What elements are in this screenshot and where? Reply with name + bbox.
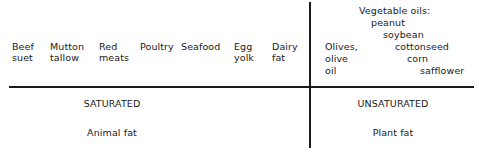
item-label: Poultry bbox=[140, 41, 174, 52]
item-label: Red bbox=[99, 41, 129, 52]
item-beef-suet: Beef suet bbox=[12, 41, 34, 63]
item-label: olive bbox=[325, 53, 358, 65]
item-label: Seafood bbox=[181, 41, 220, 52]
oil-soybean: soybean bbox=[383, 29, 424, 40]
item-red-meats: Red meats bbox=[99, 41, 129, 63]
item-label: Olives, bbox=[325, 41, 358, 53]
item-mutton-tallow: Mutton tallow bbox=[50, 41, 84, 63]
oil-corn: corn bbox=[407, 53, 428, 64]
horizontal-divider bbox=[9, 86, 474, 88]
oil-cottonseed: cottonseed bbox=[395, 41, 449, 52]
unsaturated-label: UNSATURATED bbox=[358, 98, 429, 109]
item-label: fat bbox=[272, 52, 298, 63]
oil-peanut: peanut bbox=[371, 17, 405, 28]
item-label: Egg bbox=[234, 41, 254, 52]
item-label: suet bbox=[12, 52, 34, 63]
item-label: Dairy bbox=[272, 41, 298, 52]
item-dairy-fat: Dairy fat bbox=[272, 41, 298, 63]
oil-safflower: safflower bbox=[420, 65, 464, 76]
item-label: Beef bbox=[12, 41, 34, 52]
vertical-divider bbox=[309, 2, 311, 148]
item-label: Mutton bbox=[50, 41, 84, 52]
plant-fat-label: Plant fat bbox=[373, 127, 414, 138]
saturated-label: SATURATED bbox=[84, 98, 141, 109]
vegetable-oils-heading: Vegetable oils: bbox=[359, 5, 430, 16]
animal-fat-label: Animal fat bbox=[87, 127, 137, 138]
item-olives: Olives, olive oil bbox=[325, 41, 358, 77]
item-label: tallow bbox=[50, 52, 84, 63]
item-seafood: Seafood bbox=[181, 41, 220, 52]
item-label: oil bbox=[325, 65, 358, 77]
item-poultry: Poultry bbox=[140, 41, 174, 52]
item-label: meats bbox=[99, 52, 129, 63]
item-label: yolk bbox=[234, 52, 254, 63]
item-egg-yolk: Egg yolk bbox=[234, 41, 254, 63]
